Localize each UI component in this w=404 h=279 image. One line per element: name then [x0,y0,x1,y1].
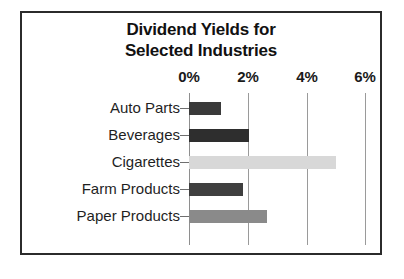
bar-beverages [189,129,249,142]
y-tick-mark-beverages [180,135,189,136]
bar-paper-products [189,210,267,223]
category-label-beverages: Beverages [20,126,180,143]
y-tick-mark-cigarettes [180,162,189,163]
x-tick-label-2: 4% [285,68,329,85]
bar-farm-products [189,183,243,196]
gridline-4pct [307,93,308,245]
category-label-auto-parts: Auto Parts [20,99,180,116]
category-label-cigarettes: Cigarettes [20,153,180,170]
y-tick-mark-paper-products [180,216,189,217]
x-tick-label-1: 2% [226,68,270,85]
plot-area: 0% 2% 4% 6% Auto Parts Beverages Cigaret… [22,13,380,253]
bar-cigarettes [189,156,336,169]
bar-auto-parts [189,102,221,115]
x-tick-label-3: 6% [343,68,387,85]
gridline-6pct [365,93,366,245]
category-label-farm-products: Farm Products [20,180,180,197]
y-tick-mark-farm-products [180,189,189,190]
y-tick-mark-auto-parts [180,108,189,109]
chart-figure: Dividend Yields for Selected Industries … [20,11,382,255]
x-tick-label-0: 0% [167,68,211,85]
category-label-paper-products: Paper Products [20,207,180,224]
